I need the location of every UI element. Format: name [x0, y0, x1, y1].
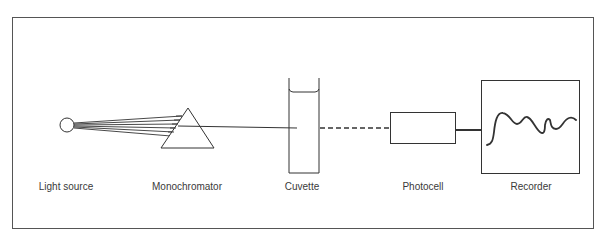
spectrophotometer-diagram — [0, 0, 602, 235]
recorder-icon — [482, 81, 580, 174]
monochromator-label: Monochromator — [152, 181, 222, 192]
photocell-icon — [391, 113, 456, 144]
light-source-label: Light source — [39, 181, 93, 192]
cuvette-label: Cuvette — [285, 181, 319, 192]
photocell-label: Photocell — [402, 181, 443, 192]
light-ray-fan — [74, 116, 182, 136]
light-source-icon — [60, 118, 74, 132]
cuvette-icon — [289, 78, 319, 173]
recorder-label: Recorder — [510, 181, 551, 192]
